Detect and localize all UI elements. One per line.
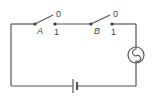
switch-a-pos-1: 1 bbox=[54, 27, 59, 37]
switch-a-label: A bbox=[36, 26, 43, 36]
switch-b-blade bbox=[91, 15, 110, 24]
switch-b: 0 B 1 bbox=[89, 9, 118, 37]
switch-a-blade bbox=[35, 15, 53, 24]
switch-b-contact-1 bbox=[110, 22, 113, 25]
battery-icon bbox=[73, 79, 77, 93]
switch-b-pos-0: 0 bbox=[113, 9, 118, 19]
circuit-diagram: 0 A 1 0 B 1 bbox=[0, 0, 154, 100]
switch-a: 0 A 1 bbox=[33, 9, 61, 37]
switch-b-pos-1: 1 bbox=[111, 27, 116, 37]
switch-a-contact-1 bbox=[53, 22, 56, 25]
switch-b-label: B bbox=[94, 26, 100, 36]
lamp-icon bbox=[128, 47, 144, 63]
switch-a-pos-0: 0 bbox=[56, 9, 61, 19]
